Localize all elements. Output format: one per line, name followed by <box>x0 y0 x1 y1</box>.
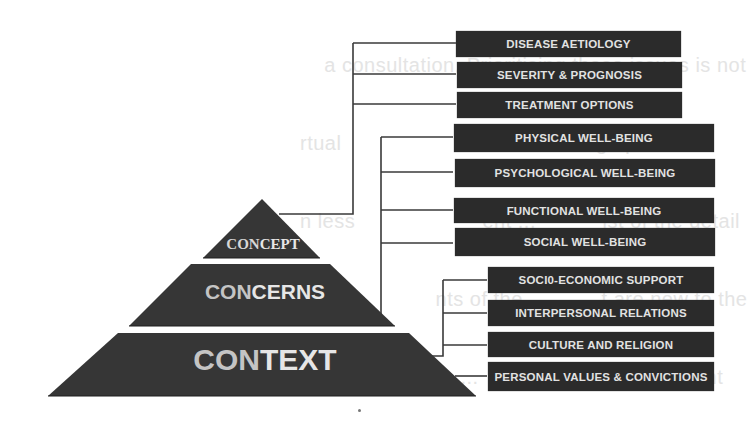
tier-label-context: CONTEXT <box>165 343 365 377</box>
box-treatment-options: TREATMENT OPTIONS <box>457 92 682 118</box>
concept-lead: CON <box>226 236 259 252</box>
box-culture-religion: CULTURE AND RELIGION <box>488 332 714 357</box>
box-severity-prognosis: SEVERITY & PROGNOSIS <box>457 62 682 88</box>
box-interpersonal-relations: INTERPERSONAL RELATIONS <box>488 300 714 326</box>
concept-connector <box>279 43 353 214</box>
concerns-connector <box>381 137 385 318</box>
box-personal-values-convictions: PERSONAL VALUES & CONVICTIONS <box>488 362 714 391</box>
box-disease-aetiology: DISEASE AETIOLOGY <box>456 31 681 57</box>
context-lead: CON <box>193 343 260 376</box>
box-functional-well-being: FUNCTIONAL WELL-BEING <box>454 198 714 223</box>
concerns-lead: CON <box>205 280 252 303</box>
concept-rest: CEPT <box>260 236 300 252</box>
context-connector <box>430 280 443 356</box>
box-psychological-well-being: PSYCHOLOGICAL WELL-BEING <box>455 159 715 187</box>
box-socio-economic-support: SOCI0-ECONOMIC SUPPORT <box>488 267 714 293</box>
context-rest: TEXT <box>260 343 337 376</box>
tier-label-concerns: CONCERNS <box>185 280 345 304</box>
box-physical-well-being: PHYSICAL WELL-BEING <box>454 124 714 152</box>
concerns-rest: CERNS <box>252 280 326 303</box>
tier-label-concept: CONCEPT <box>213 236 313 253</box>
box-social-well-being: SOCIAL WELL-BEING <box>455 228 715 256</box>
stray-dot <box>358 409 361 412</box>
